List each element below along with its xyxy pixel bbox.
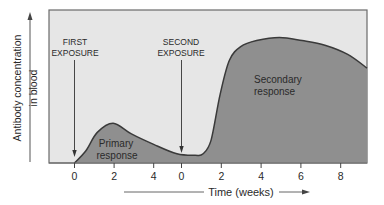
- x-tick-label: 2: [218, 170, 224, 182]
- secondary-response-label-line2: response: [254, 86, 296, 97]
- first-exposure-label-line2: EXPOSURE: [51, 48, 99, 58]
- second-exposure-label-line1: SECOND: [163, 37, 199, 47]
- x-tick-label: 6: [298, 170, 304, 182]
- y-axis-label-line2: in blood: [27, 69, 39, 106]
- primary-response-label-line1: Primary: [99, 138, 133, 149]
- y-axis-label-line1: Antibody concentration: [11, 34, 23, 141]
- x-tick-label: 0: [72, 170, 78, 182]
- x-tick-label: 8: [338, 170, 344, 182]
- x-ticks: 02402468: [72, 163, 344, 182]
- x-tick-label: 0: [179, 170, 185, 182]
- primary-response-label-line2: response: [96, 150, 138, 161]
- first-exposure-label-line1: FIRST: [63, 37, 88, 47]
- x-axis-label: Time (weeks): [208, 186, 274, 198]
- second-exposure-label-line2: EXPOSURE: [157, 48, 205, 58]
- x-tick-label: 4: [258, 170, 264, 182]
- x-tick-label: 2: [111, 170, 117, 182]
- antibody-response-chart: Antibody concentration in blood 02402468…: [0, 0, 384, 205]
- secondary-response-label-line1: Secondary: [254, 74, 302, 85]
- x-tick-label: 4: [151, 170, 157, 182]
